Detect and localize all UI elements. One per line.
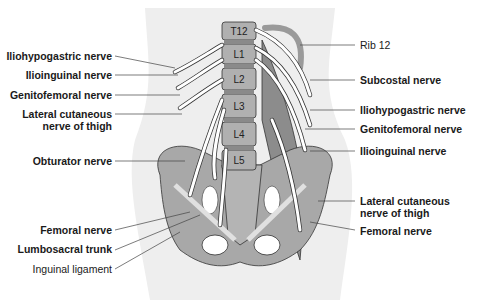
svg-text:T12: T12 [230, 26, 248, 37]
label-subcostal-nerve: Subcostal nerve [360, 74, 441, 86]
label-inguinal-ligament: Inguinal ligament [33, 263, 112, 275]
label-iliohypogastric-left: Iliohypogastric nerve [6, 50, 112, 62]
label-genitofemoral-right: Genitofemoral nerve [360, 123, 462, 135]
svg-text:L5: L5 [233, 155, 245, 166]
label-rib-12: Rib 12 [360, 39, 390, 51]
label-genitofemoral-left: Genitofemoral nerve [10, 89, 112, 101]
svg-text:L4: L4 [233, 129, 245, 140]
svg-text:L1: L1 [233, 49, 245, 60]
obturator-foramen-left [202, 235, 228, 255]
label-iliohypogastric-right: Iliohypogastric nerve [360, 104, 466, 116]
label-femoral-right: Femoral nerve [360, 225, 432, 237]
label-lateral-cutaneous-left-1: Lateral cutaneous [22, 108, 112, 120]
label-femoral-left: Femoral nerve [40, 224, 112, 236]
label-lateral-cutaneous-right-2: nerve of thigh [360, 207, 429, 219]
label-lateral-cutaneous-left-2: nerve of thigh [43, 120, 112, 132]
label-lateral-cutaneous-right-1: Lateral cutaneous [360, 195, 450, 207]
label-obturator-nerve: Obturator nerve [33, 155, 112, 167]
obturator-foramen-right [254, 235, 280, 255]
vertebral-column [222, 22, 256, 170]
label-ilioinguinal-left: Ilioinguinal nerve [26, 69, 112, 81]
label-lumbosacral-trunk: Lumbosacral trunk [17, 243, 112, 255]
svg-text:L3: L3 [233, 101, 245, 112]
label-ilioinguinal-right: Ilioinguinal nerve [360, 145, 446, 157]
svg-text:L2: L2 [233, 74, 245, 85]
